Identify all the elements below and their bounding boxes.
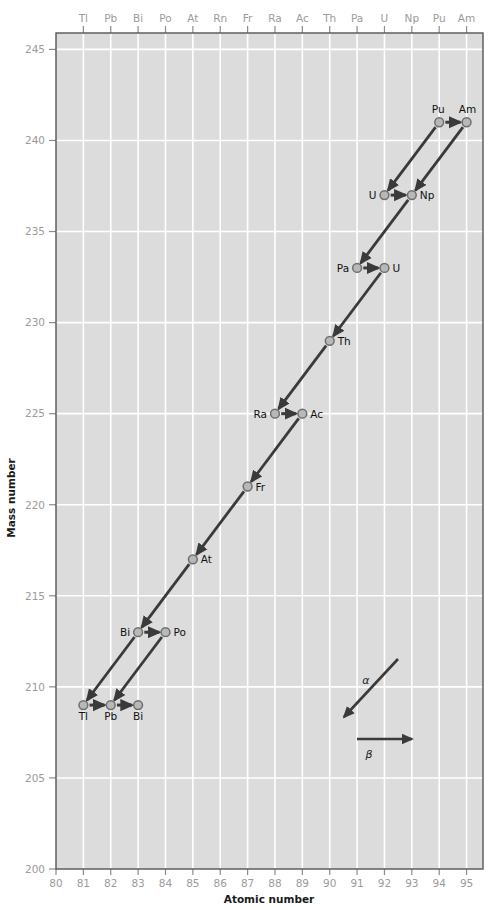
nuclide-marker	[134, 701, 143, 710]
decay-chain-chart: TlPbBiPoAtRnFrRaAcThPaUNpPuAm 8081828384…	[0, 0, 492, 910]
plot-background	[56, 33, 483, 869]
top-element-symbol: Th	[322, 12, 336, 24]
y-tick-label: 230	[25, 316, 45, 328]
top-element-symbol: Bi	[133, 12, 143, 24]
x-tick-label: 81	[77, 877, 90, 889]
x-tick-label: 91	[350, 877, 363, 889]
top-element-symbol: Ac	[296, 12, 309, 24]
y-tick-label: 200	[25, 863, 45, 875]
nuclide-marker	[79, 701, 88, 710]
nuclide-label: Am	[459, 103, 476, 115]
top-element-symbol: Am	[458, 12, 475, 24]
x-tick-label: 80	[49, 877, 62, 889]
y-tick-label: 240	[25, 134, 45, 146]
top-element-symbol: Rn	[213, 12, 227, 24]
nuclide-marker	[188, 555, 197, 564]
x-tick-label: 87	[241, 877, 254, 889]
y-axis-title: Mass number	[5, 457, 17, 537]
x-tick-label: 95	[460, 877, 473, 889]
nuclide-label: Pu	[432, 103, 445, 115]
chart-canvas: TlPbBiPoAtRnFrRaAcThPaUNpPuAm 8081828384…	[0, 0, 492, 910]
top-element-symbol: U	[381, 12, 389, 24]
nuclide-marker	[407, 191, 416, 200]
y-tick-label: 215	[25, 590, 45, 602]
top-element-symbol: Pa	[351, 12, 363, 24]
nuclide-label: Pb	[104, 710, 117, 722]
top-element-symbol: Fr	[243, 12, 253, 24]
alpha-legend-label: α	[362, 674, 370, 687]
x-tick-label: 88	[268, 877, 281, 889]
nuclide-label: U	[392, 262, 400, 274]
top-element-symbol: Np	[405, 12, 420, 24]
nuclide-marker	[353, 264, 362, 273]
x-tick-label: 93	[405, 877, 418, 889]
y-tick-label: 245	[25, 43, 45, 55]
nuclide-label: At	[201, 553, 212, 565]
nuclide-label: Ra	[253, 408, 267, 420]
x-tick-label: 89	[296, 877, 309, 889]
nuclide-marker	[106, 701, 115, 710]
nuclide-label: Pa	[337, 262, 349, 274]
nuclide-label: Th	[337, 335, 351, 347]
nuclide-label: Fr	[256, 481, 266, 493]
x-tick-label: 92	[378, 877, 391, 889]
top-element-symbol: Tl	[78, 12, 88, 24]
nuclide-label: U	[369, 189, 377, 201]
beta-legend-label: β	[364, 748, 372, 761]
nuclide-marker	[462, 118, 471, 127]
x-tick-label: 94	[433, 877, 447, 889]
x-tick-label: 83	[131, 877, 144, 889]
x-tick-label: 90	[323, 877, 336, 889]
y-tick-label: 225	[25, 407, 45, 419]
nuclide-label: Np	[420, 189, 435, 201]
nuclide-marker	[298, 409, 307, 418]
x-axis-title: Atomic number	[224, 893, 315, 905]
x-tick-label: 82	[104, 877, 117, 889]
nuclide-marker	[243, 482, 252, 491]
y-tick-label: 220	[25, 499, 45, 511]
nuclide-marker	[325, 336, 334, 345]
nuclide-marker	[161, 628, 170, 637]
nuclide-label: Tl	[78, 710, 88, 722]
top-element-symbol: At	[187, 12, 198, 24]
x-tick-label: 85	[186, 877, 199, 889]
y-tick-label: 210	[25, 681, 45, 693]
top-element-symbol: Po	[159, 12, 171, 24]
nuclide-label: Ac	[310, 408, 323, 420]
nuclide-marker	[134, 628, 143, 637]
y-tick-label: 235	[25, 225, 45, 237]
top-element-symbol: Pb	[104, 12, 117, 24]
nuclide-label: Bi	[120, 626, 130, 638]
top-element-symbol: Pu	[433, 12, 446, 24]
nuclide-marker	[380, 191, 389, 200]
y-tick-label: 205	[25, 772, 45, 784]
nuclide-label: Bi	[133, 710, 143, 722]
nuclide-label: Po	[173, 626, 185, 638]
nuclide-marker	[435, 118, 444, 127]
top-element-symbols: TlPbBiPoAtRnFrRaAcThPaUNpPuAm	[78, 12, 476, 24]
top-element-symbol: Ra	[268, 12, 282, 24]
x-tick-label: 86	[214, 877, 228, 889]
nuclide-marker	[380, 264, 389, 273]
nuclide-marker	[271, 409, 280, 418]
x-tick-label: 84	[159, 877, 173, 889]
